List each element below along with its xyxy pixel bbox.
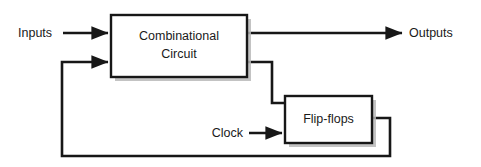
flip-flops-label: Flip-flops [303, 112, 354, 126]
wire-next-state [247, 62, 287, 103]
outputs-label: Outputs [409, 26, 453, 40]
combinational-circuit-box [111, 15, 247, 77]
clock-label: Clock [212, 126, 244, 140]
sequential-circuit-diagram: Combinational Circuit Flip-flops Inputs … [0, 0, 481, 167]
diagram-canvas: Combinational Circuit Flip-flops Inputs … [0, 0, 481, 167]
combinational-circuit-label-line2: Circuit [161, 47, 197, 61]
block-flip-flops: Flip-flops [285, 96, 376, 147]
block-combinational-circuit: Combinational Circuit [111, 15, 251, 81]
inputs-label: Inputs [18, 26, 52, 40]
combinational-circuit-label-line1: Combinational [139, 29, 219, 43]
